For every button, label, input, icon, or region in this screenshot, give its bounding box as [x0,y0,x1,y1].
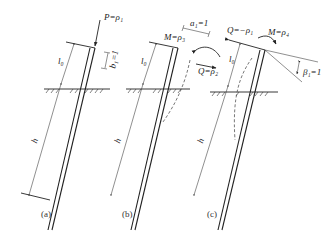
pile-a [48,48,95,230]
panel-b: l₀ h M=ρ₃ a₁=1 Q=ρ₂ (b) [111,18,220,230]
panel-c: l₀ h Q=−ρ₁ M=ρ₄ β₁=1 (c) [194,25,321,230]
label-rotation-c: β₁=1 [302,67,321,77]
ground-line-a [44,89,110,93]
pile-diagram: l₀ h P=ρ₁ b₁=1 (a) [0,0,332,233]
caption-a: (a) [41,209,51,219]
label-shear-c: Q=−ρ₁ [227,25,253,35]
caption-b: (b) [122,209,133,219]
label-h-b: h [112,137,123,145]
deflected-shape-c [234,58,252,140]
rotated-line-c [265,50,302,82]
label-l0-c: l₀ [229,54,235,64]
panel-a: l₀ h P=ρ₁ b₁=1 (a) [21,12,123,230]
label-moment-c: M=ρ₄ [267,27,289,37]
label-h-a: h [29,137,40,145]
top-line-b [149,42,178,48]
top-line-a [66,42,95,48]
ground-line-c [210,92,278,96]
label-l0-a: l₀ [58,56,64,66]
label-h-c: h [195,137,206,145]
caption-c: (c) [207,209,217,219]
top-line-c [229,40,265,50]
pile-b [131,48,178,230]
load-arrow-a [95,20,100,46]
rotation-arrow-b [196,47,220,57]
rotation-angle-c [297,63,299,74]
label-load-a: P=ρ₁ [103,12,123,22]
reference-line-c [265,50,318,62]
label-shear-b: Q=ρ₂ [198,66,218,76]
deflected-shape-b [163,60,190,122]
bottom-line-a [21,193,50,200]
label-moment-b: M=ρ₃ [163,32,185,42]
label-unit-disp-b: a₁=1 [190,18,208,28]
label-l0-b: l₀ [141,56,147,66]
label-unit-disp-a: b₁=1 [107,49,120,69]
dim-l0-c [228,44,240,86]
moment-arrow-c [258,36,276,44]
